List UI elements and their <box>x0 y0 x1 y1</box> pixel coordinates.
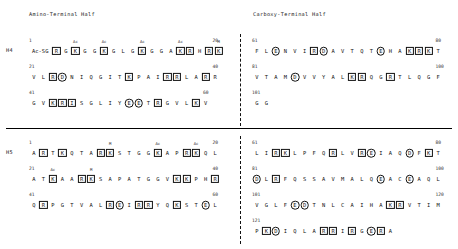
sequence-position-numbers: 81100 <box>252 64 443 71</box>
residue-letter: G <box>425 74 432 81</box>
residue: E <box>376 45 386 57</box>
residue: K <box>262 225 272 237</box>
residue-letter: T <box>145 100 152 107</box>
residue-letter: V <box>349 150 356 157</box>
residue-letter: E <box>377 47 386 56</box>
residue: Q <box>357 45 367 57</box>
residue: E <box>201 199 211 211</box>
residue-letter: R <box>212 74 219 81</box>
residue-letter: T <box>68 202 75 209</box>
sequence-position-numbers: 2140 <box>29 64 220 71</box>
residue-letter: V <box>30 74 37 81</box>
methylation-mark: M <box>109 142 111 146</box>
residue: I <box>281 225 291 237</box>
residue-letter: R <box>154 99 162 107</box>
residue: G <box>128 45 138 57</box>
residue: D <box>319 45 329 57</box>
residue: G <box>109 45 119 57</box>
residue: L <box>357 173 367 185</box>
residue-row: VLRDNIQGITKPAIRRLARR <box>29 71 220 83</box>
residue: Q <box>367 71 377 83</box>
residue: K <box>281 147 291 159</box>
residue: V <box>39 97 49 109</box>
residue-letter: R <box>358 73 366 81</box>
residue-letter: F <box>253 48 260 55</box>
methylation-mark: M <box>90 168 92 172</box>
residue-letter: T <box>435 150 442 157</box>
sequence-position-numbers: 2140 <box>29 166 220 173</box>
residue: R <box>153 97 163 109</box>
section-divider <box>6 128 452 129</box>
residue: T <box>39 173 49 185</box>
residue-letter: S <box>301 176 308 183</box>
residue-letter: A <box>145 74 152 81</box>
residue: E <box>124 97 134 109</box>
residue: G <box>163 97 173 109</box>
residue: G <box>58 199 68 211</box>
sequence-position-numbers: 6180 <box>252 140 443 147</box>
residue: D <box>405 147 415 159</box>
residue: R <box>52 45 62 57</box>
residue: KAc <box>153 147 163 159</box>
residue: K <box>172 173 182 185</box>
residue: G <box>144 147 154 159</box>
residue: V <box>77 199 87 211</box>
position-end: 20 <box>212 140 218 145</box>
residue: F <box>281 173 291 185</box>
residue-letter: M <box>339 176 346 183</box>
residue-letter: Q <box>164 202 171 209</box>
residue-letter: D <box>300 201 309 210</box>
residue-letter: R <box>310 47 318 55</box>
residue: V <box>290 45 300 57</box>
residue-letter: T <box>193 202 200 209</box>
sequence-line: 2140VLRDNIQGITKPAIRRLARR <box>29 64 220 83</box>
residue: Y <box>153 199 163 211</box>
residue-letter: R <box>182 149 190 157</box>
residue-letter: G <box>110 48 117 55</box>
residue-letter: T <box>78 150 85 157</box>
residue-letter: E <box>377 175 386 184</box>
residue-letter: L <box>301 228 308 235</box>
residue: G <box>29 97 39 109</box>
residue: R <box>144 199 154 211</box>
residue-letter: R <box>202 73 210 81</box>
residue: R <box>163 71 173 83</box>
residue-letter: L <box>40 74 47 81</box>
residue: T <box>67 199 77 211</box>
residue: N <box>319 199 329 211</box>
residue-letter: Q <box>30 202 37 209</box>
acetylation-mark: Ac <box>140 40 145 44</box>
residue: A <box>191 71 201 83</box>
residue: H <box>201 173 211 185</box>
residue: T <box>433 147 443 159</box>
residue-letter: R <box>39 201 47 209</box>
residue-letter: G <box>154 176 161 183</box>
residue: V <box>163 173 173 185</box>
residue: T <box>77 147 87 159</box>
residue-letter: R <box>320 227 328 235</box>
position-end: 40 <box>212 64 218 69</box>
residue-letter: I <box>377 150 384 157</box>
residue-letter: K <box>192 99 200 107</box>
residue-letter: G <box>81 48 88 55</box>
residue-letter: G <box>135 150 142 157</box>
residue-letter: E <box>367 149 376 158</box>
residue: A <box>124 173 134 185</box>
residue: T <box>124 147 134 159</box>
residue-letter: S <box>183 202 190 209</box>
residue: A <box>319 173 329 185</box>
sequence-line: 120ARTKQTARKMSTGGKAcAPRKAcQL <box>29 140 220 159</box>
residue: A <box>29 173 39 185</box>
residue: R <box>271 173 281 185</box>
residue: KAc <box>137 45 147 57</box>
sequence-position-numbers: 4160 <box>29 90 210 97</box>
residue: F <box>252 45 262 57</box>
residue-letter: T <box>368 48 375 55</box>
residue: V <box>347 147 357 159</box>
residue-letter: Q <box>358 48 365 55</box>
residue-letter: C <box>339 202 346 209</box>
position-end: 40 <box>212 166 218 171</box>
residue: L <box>338 71 348 83</box>
residue: R <box>182 147 192 159</box>
residue-letter: T <box>396 74 403 81</box>
